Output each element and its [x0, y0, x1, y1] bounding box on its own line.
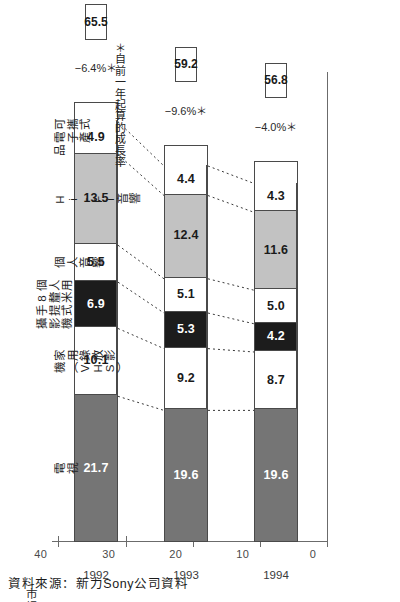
- bar-segment-tv[interactable]: 19.6: [255, 409, 297, 541]
- growth-rate: −9.6%＊: [178, 88, 194, 131]
- bar-segment-tv[interactable]: 19.6: [165, 409, 207, 541]
- category-label-vcr: 家用錄放影 機（VHS）: [54, 350, 129, 376]
- segment-value: 9.2: [177, 371, 195, 385]
- category-label-hifi: Hi-Fi音響: [54, 193, 142, 206]
- growth-rate: −6.4%＊: [88, 46, 104, 89]
- axis-tick-label: 10: [236, 548, 249, 560]
- category-label-personal: 個人音響: [54, 257, 104, 270]
- segment-value: 19.6: [263, 468, 288, 482]
- axis-tick-label: 40: [35, 548, 48, 560]
- total-value: 59.2: [175, 47, 197, 82]
- bar-segment-hifi[interactable]: 11.6: [255, 211, 297, 289]
- bar-1994[interactable]: 19.68.74.25.011.64.3: [254, 161, 298, 542]
- bar-segment-camcorder[interactable]: 4.2: [255, 323, 297, 351]
- bar-segment-portable[interactable]: 4.4: [165, 165, 207, 195]
- bar-segment-camcorder[interactable]: 5.3: [165, 312, 207, 348]
- segment-value: 11.6: [263, 243, 287, 257]
- segment-value: 4.4: [177, 172, 195, 186]
- total-value: 65.5: [85, 4, 107, 39]
- axis-tick-label: 0: [310, 548, 316, 560]
- bar-segment-vcr[interactable]: 9.2: [165, 348, 207, 410]
- segment-value: 5.0: [267, 299, 285, 313]
- chart-stage: 010203040506070 199221.710.16.95.513.54.…: [0, 0, 400, 602]
- segment-value: 4.2: [267, 329, 285, 343]
- segment-value: 19.6: [173, 468, 198, 482]
- segment-value: 5.3: [177, 322, 195, 336]
- growth-rate: −4.0%＊: [268, 104, 284, 147]
- category-label-tv: 電視: [54, 463, 79, 476]
- bar-segment-tv[interactable]: 21.7: [75, 395, 117, 541]
- segment-value: 8.7: [267, 373, 285, 387]
- segment-value: 4.3: [267, 189, 285, 203]
- bar-segment-vcr[interactable]: 8.7: [255, 351, 297, 409]
- bar-segment-portable[interactable]: 4.3: [255, 183, 297, 212]
- segment-value: 21.7: [83, 461, 108, 475]
- source-line: 資料來源：新力Sony公司資料: [8, 573, 189, 592]
- growth-footnote: ＊自前一年起算的成長率: [112, 42, 128, 167]
- bar-total-1993: 59.2−9.6%＊: [164, 47, 208, 131]
- bar-1993[interactable]: 19.69.25.35.112.44.4: [164, 145, 208, 542]
- year-label-1994: 1994: [254, 552, 298, 598]
- segment-value: 5.1: [177, 287, 195, 301]
- total-value: 56.8: [265, 63, 287, 98]
- bar-total-1994: 56.8−4.0%＊: [254, 63, 298, 147]
- bar-1992[interactable]: 21.710.16.95.513.54.9: [74, 102, 118, 542]
- category-label-camcorder: 個人用 8釐米 手提式 攝影機: [36, 280, 74, 332]
- bar-segment-personal[interactable]: 5.1: [165, 278, 207, 312]
- bar-segment-hifi[interactable]: 12.4: [165, 195, 207, 278]
- segment-value: 6.9: [87, 297, 105, 311]
- category-label-portable: 可攜式 電子產 品: [54, 119, 92, 158]
- segment-value: 12.4: [173, 229, 198, 243]
- bar-segment-camcorder[interactable]: 6.9: [75, 281, 117, 327]
- bar-segment-personal[interactable]: 5.0: [255, 289, 297, 323]
